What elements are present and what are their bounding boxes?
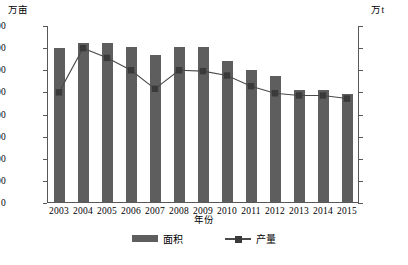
yield-marker-2015 xyxy=(344,95,350,101)
left-axis-tick-label: 4 000 xyxy=(0,154,6,164)
left-axis-tick-label: 0 xyxy=(1,198,6,208)
yield-marker-2012 xyxy=(272,90,278,96)
yield-marker-2007 xyxy=(152,86,158,92)
yield-marker-2013 xyxy=(296,92,302,98)
line-series-yield xyxy=(47,26,359,203)
yield-marker-2014 xyxy=(320,92,326,98)
yield-marker-2008 xyxy=(176,67,182,73)
chart-figure: 万亩 万t 02 0004 0006 0008 00010 00012 0001… xyxy=(0,0,408,265)
left-axis-tick-label: 8 000 xyxy=(0,110,6,120)
left-axis-tick-label: 10 000 xyxy=(0,87,6,97)
left-axis-unit-label: 万亩 xyxy=(8,2,29,16)
yield-marker-2005 xyxy=(104,55,110,61)
yield-marker-2009 xyxy=(200,68,206,74)
left-axis-tick-label: 12 000 xyxy=(0,65,6,75)
legend-item-area: 面积 xyxy=(132,231,183,246)
left-axis-tick-label: 16 000 xyxy=(0,21,6,31)
right-axis-tick xyxy=(358,203,363,204)
legend-label-yield: 产量 xyxy=(256,231,276,246)
yield-marker-2003 xyxy=(56,89,62,95)
yield-marker-2006 xyxy=(128,67,134,73)
yield-marker-2010 xyxy=(224,72,230,78)
left-axis-tick-label: 2 000 xyxy=(0,176,6,186)
yield-marker-2011 xyxy=(248,83,254,89)
legend-label-area: 面积 xyxy=(163,231,183,246)
right-axis-unit-label: 万t xyxy=(371,2,384,16)
line-marker-swatch-icon xyxy=(225,235,251,243)
left-axis-tick xyxy=(43,203,47,204)
yield-marker-2004 xyxy=(80,45,86,51)
left-axis-tick-label: 14 000 xyxy=(0,43,6,53)
legend-item-yield: 产量 xyxy=(225,231,276,246)
left-axis-tick-label: 6 000 xyxy=(0,132,6,142)
bar-swatch-icon xyxy=(132,235,158,242)
plot-area: 02 0004 0006 0008 00010 00012 00014 0001… xyxy=(47,26,359,203)
chart-legend: 面积 产量 xyxy=(0,231,408,246)
x-axis-title: 年份 xyxy=(0,212,408,226)
